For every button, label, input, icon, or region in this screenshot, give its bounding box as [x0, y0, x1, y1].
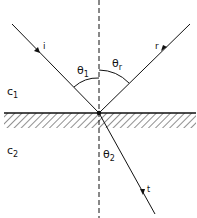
transmitted-ray-label: t [147, 186, 150, 194]
refraction-diagram: i r t θ1 θr θ2 c1 c2 [0, 0, 197, 218]
incident-ray-label: i [43, 42, 46, 51]
diagram-svg [0, 0, 197, 218]
theta-r-label: θr [112, 58, 122, 72]
transmitted-ray [99, 113, 155, 214]
incident-angle-arc [74, 78, 99, 87]
incidence-point [97, 111, 102, 116]
medium-1-label: c1 [7, 86, 18, 100]
medium-2-label: c2 [7, 145, 18, 159]
theta-1-label: θ1 [77, 65, 89, 79]
reflected-ray-label: r [155, 42, 159, 51]
theta-2-label: θ2 [103, 149, 115, 163]
